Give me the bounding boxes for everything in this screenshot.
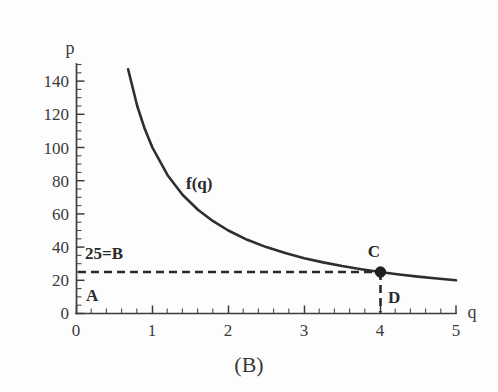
- label-origin-a: A: [86, 286, 99, 305]
- label-quantity-d: D: [388, 288, 400, 307]
- x-tick-label: 0: [72, 321, 81, 340]
- y-tick-label: 120: [44, 105, 70, 124]
- point-c-marker: [375, 267, 385, 277]
- curve-function-label: f(q): [186, 174, 212, 193]
- figure-caption: (B): [234, 352, 263, 377]
- x-tick-label: 5: [452, 321, 461, 340]
- label-price-b: 25=B: [85, 244, 123, 263]
- y-tick-label: 40: [52, 238, 69, 257]
- y-tick-label: 100: [44, 139, 70, 158]
- demand-curve-fq: [128, 69, 456, 280]
- x-tick-label: 2: [224, 321, 233, 340]
- y-axis-title: p: [66, 38, 75, 58]
- y-tick-label: 0: [61, 304, 70, 323]
- x-tick-label: 1: [148, 321, 157, 340]
- x-axis-title: q: [468, 302, 477, 322]
- chart-canvas: 0 20 40 60 80 100 120 140: [0, 0, 498, 392]
- y-tick-label: 60: [52, 205, 69, 224]
- y-tick-label: 140: [44, 72, 70, 91]
- label-point-c: C: [368, 242, 380, 261]
- y-tick-label: 80: [52, 172, 69, 191]
- figure-container: 0 20 40 60 80 100 120 140: [0, 0, 498, 392]
- y-tick-label: 20: [52, 271, 69, 290]
- x-axis-tick-labels: 0 1 2 3 4 5: [72, 321, 461, 340]
- y-axis-tick-labels: 0 20 40 60 80 100 120 140: [44, 72, 70, 323]
- x-tick-label: 3: [300, 321, 309, 340]
- axes-group: [76, 64, 456, 314]
- x-tick-label: 4: [376, 321, 385, 340]
